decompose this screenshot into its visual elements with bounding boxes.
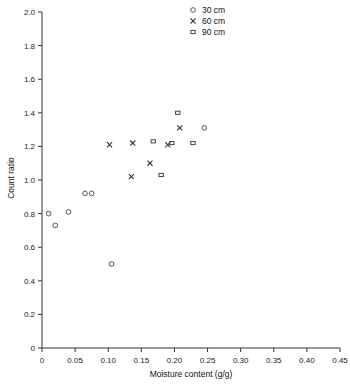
x-tick-label: 0.25 xyxy=(200,356,216,365)
legend-label: 90 cm xyxy=(202,27,225,37)
legend-marker-90-cm xyxy=(191,30,195,33)
data-point xyxy=(107,142,112,147)
y-tick-label: 1.6 xyxy=(24,75,36,84)
x-tick-label: 0.45 xyxy=(332,356,348,365)
x-tick-label: 0.10 xyxy=(100,356,116,365)
y-axis-title: Count ratio xyxy=(6,157,16,199)
scatter-plot-figure: 00.20.40.60.81.01.21.41.61.82.0 00.050.1… xyxy=(0,0,350,384)
x-tick-label: 0.05 xyxy=(67,356,83,365)
x-tick-label: 0.40 xyxy=(299,356,315,365)
data-point xyxy=(159,173,163,176)
y-tick-label: 0.8 xyxy=(24,210,36,219)
series-90-cm xyxy=(151,111,195,176)
series-30-cm xyxy=(46,126,206,267)
y-tick-label: 1.8 xyxy=(24,42,36,51)
y-tick-label: 1.0 xyxy=(24,176,36,185)
legend-marker-30-cm xyxy=(191,8,196,13)
data-point xyxy=(66,210,71,215)
y-tick-label: 0.4 xyxy=(24,277,36,286)
data-point xyxy=(46,211,51,216)
x-axis-ticks: 00.050.100.150.200.250.300.350.400.45 xyxy=(40,348,349,365)
data-point xyxy=(177,125,182,130)
legend-marker-60-cm xyxy=(190,18,195,23)
axes xyxy=(42,12,340,348)
legend-label: 60 cm xyxy=(202,16,225,26)
data-point xyxy=(83,191,88,196)
data-point xyxy=(202,126,207,131)
y-tick-label: 0.6 xyxy=(24,243,36,252)
x-tick-label: 0.20 xyxy=(167,356,183,365)
x-tick-label: 0.35 xyxy=(266,356,282,365)
x-tick-label: 0 xyxy=(40,356,45,365)
data-point xyxy=(130,140,135,145)
series-60-cm xyxy=(107,125,182,179)
data-point-group xyxy=(46,111,206,266)
x-tick-label: 0.15 xyxy=(134,356,150,365)
plot-canvas: 00.20.40.60.81.01.21.41.61.82.0 00.050.1… xyxy=(0,0,350,384)
data-point xyxy=(176,111,180,114)
data-point xyxy=(191,141,195,144)
y-tick-label: 0.2 xyxy=(24,310,36,319)
data-point xyxy=(129,174,134,179)
data-point xyxy=(147,161,152,166)
data-point xyxy=(89,191,94,196)
y-tick-label: 2.0 xyxy=(24,8,36,17)
data-point xyxy=(151,140,155,143)
x-axis-title: Moisture content (g/g) xyxy=(150,369,233,379)
y-axis-ticks: 00.20.40.60.81.01.21.41.61.82.0 xyxy=(24,8,42,353)
y-tick-label: 1.2 xyxy=(24,142,36,151)
legend-label: 30 cm xyxy=(202,5,225,15)
x-tick-label: 0.30 xyxy=(233,356,249,365)
data-point xyxy=(109,262,114,267)
y-tick-label: 1.4 xyxy=(24,109,36,118)
chart-legend: 30 cm60 cm90 cm xyxy=(190,5,225,37)
data-point xyxy=(53,223,58,228)
y-tick-label: 0 xyxy=(31,344,36,353)
